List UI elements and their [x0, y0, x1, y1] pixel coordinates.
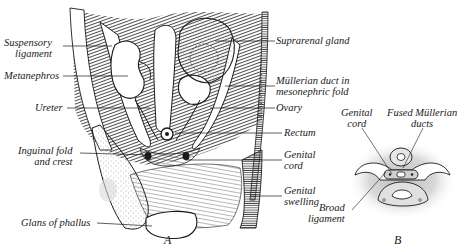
label-line: cord	[284, 160, 316, 171]
panel-letter-b: B	[394, 233, 401, 248]
label-line: Genital	[284, 185, 319, 196]
label-line: ducts	[387, 118, 457, 129]
label-rectum: Rectum	[284, 127, 316, 138]
label-b-broad-ligament: Broad ligament	[308, 202, 345, 224]
label-ovary: Ovary	[276, 102, 302, 113]
label-line: Inguinal fold	[18, 145, 73, 156]
label-line: cord	[341, 118, 373, 129]
label-suspensory-ligament: Suspensory ligament	[4, 37, 52, 59]
label-line: Broad	[308, 202, 345, 213]
panel-b-drawing	[347, 140, 457, 220]
label-line: ligament	[308, 213, 345, 224]
label-glans-of-phallus: Glans of phallus	[21, 217, 90, 228]
label-genital-cord: Genital cord	[284, 149, 316, 171]
panel-a-drawing	[70, 8, 268, 239]
label-b-fused-mullerian-ducts: Fused Müllerian ducts	[387, 107, 457, 129]
label-inguinal-fold-and-crest: Inguinal fold and crest	[18, 145, 73, 167]
label-b-genital-cord: Genital cord	[341, 107, 373, 129]
label-mullerian-duct: Müllerian duct in mesonephric fold	[276, 75, 350, 97]
label-line: Fused Müllerian	[387, 107, 457, 118]
label-line: Suspensory	[4, 37, 52, 48]
label-line: ligament	[4, 48, 52, 59]
label-suprarenal-gland: Suprarenal gland	[276, 35, 349, 46]
label-line: Genital	[341, 107, 373, 118]
label-line: Genital	[284, 149, 316, 160]
label-line: mesonephric fold	[276, 86, 350, 97]
panel-letter-a: A	[164, 233, 171, 248]
label-metanephros: Metanephros	[4, 70, 59, 81]
label-line: Müllerian duct in	[276, 75, 350, 86]
label-line: and crest	[18, 156, 73, 167]
label-ureter: Ureter	[35, 102, 63, 113]
